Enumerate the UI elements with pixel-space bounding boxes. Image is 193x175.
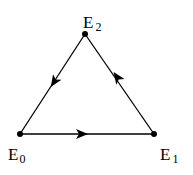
node-e0 (17, 131, 23, 137)
labels: E2 E0 E1 (8, 13, 178, 166)
label-e1: E1 (160, 145, 178, 166)
label-e0: E0 (8, 145, 25, 166)
arrowheads (47, 69, 125, 139)
edge-e1-e2 (85, 34, 154, 134)
arrow-e1-e2-icon (109, 69, 124, 85)
label-e2: E2 (83, 13, 101, 34)
triangle-diagram: E2 E0 E1 (0, 0, 193, 175)
arrow-e2-e0-icon (47, 74, 62, 90)
node-e1 (151, 131, 157, 137)
nodes (17, 31, 157, 137)
edges (20, 34, 154, 134)
